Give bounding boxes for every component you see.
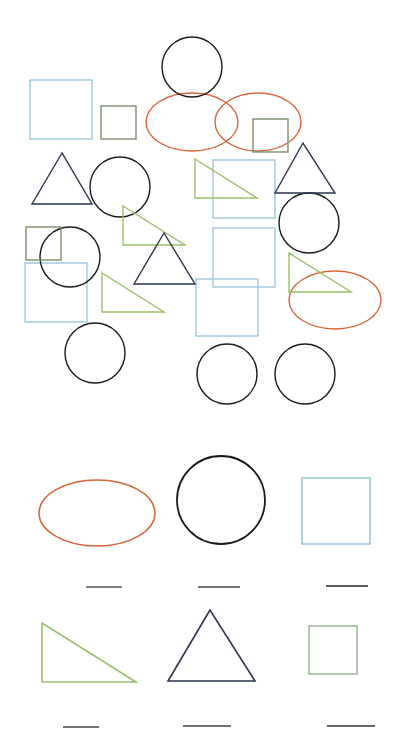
scene-blue-square	[25, 263, 87, 322]
scene-circle	[279, 193, 339, 253]
right-triangle-key-shape	[42, 623, 136, 682]
scene-circle	[162, 37, 222, 97]
scene-equilateral-triangle	[275, 143, 335, 193]
scene-green-square	[253, 119, 288, 152]
equilateral-triangle-key-shape	[168, 610, 255, 681]
circle-key-shape	[177, 456, 265, 544]
scene-right-triangle	[289, 253, 351, 292]
scene-circle	[40, 227, 100, 287]
mixed-shapes-scene	[25, 37, 381, 404]
scene-circle	[90, 157, 150, 217]
scene-blue-square	[30, 80, 92, 139]
scene-right-triangle	[123, 206, 185, 245]
shape-counting-worksheet	[0, 0, 398, 755]
blue-square-key-shape	[302, 478, 370, 544]
scene-ellipse	[146, 93, 238, 151]
green-square-key-shape	[309, 626, 357, 674]
scene-right-triangle	[102, 273, 164, 312]
answer-row-1	[39, 456, 370, 587]
scene-equilateral-triangle	[134, 233, 195, 284]
scene-green-square	[101, 106, 136, 139]
scene-circle	[197, 344, 257, 404]
scene-ellipse	[289, 271, 381, 329]
answer-row-2	[42, 610, 375, 727]
scene-right-triangle	[195, 159, 257, 198]
scene-blue-square	[213, 228, 275, 287]
scene-circle	[65, 323, 125, 383]
ellipse-key-shape	[39, 480, 155, 546]
scene-circle	[275, 344, 335, 404]
scene-equilateral-triangle	[32, 153, 92, 204]
